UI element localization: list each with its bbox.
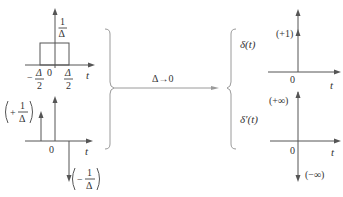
origin-label: 0 — [47, 67, 52, 78]
plus-infinity-arrow-icon — [296, 91, 301, 98]
pos-numerator: 1 — [20, 100, 25, 111]
delta-derivative-plot: δ′(t) (+∞) (−∞) 0 t — [240, 91, 341, 182]
impulse-strength-label: (+1) — [276, 28, 293, 40]
t-axis-arrow-icon — [86, 139, 93, 144]
limit-arrow-icon — [211, 86, 219, 90]
height-denominator: Δ — [59, 28, 66, 39]
minus-infinity-arrow-icon — [296, 175, 301, 182]
paren-left — [73, 168, 76, 190]
height-numerator: 1 — [60, 16, 65, 27]
limit-label: Δ→0 — [152, 73, 173, 84]
paren-left — [6, 101, 9, 123]
paren-right — [30, 101, 33, 123]
diagram-canvas: 1 Δ − Δ 2 0 Δ 2 t + 1 Δ 0 t — [0, 0, 343, 197]
origin-label: 0 — [290, 145, 295, 156]
paren-right — [97, 168, 100, 190]
pos-sign: + — [10, 107, 16, 118]
unit-impulse-arrow-icon — [296, 29, 301, 36]
t-axis-label: t — [86, 69, 90, 81]
plus-infinity-label: (+∞) — [269, 95, 288, 107]
delta-derivative-label: δ′(t) — [240, 113, 258, 126]
positive-impulse-arrow-icon — [39, 111, 44, 118]
neg-denominator: Δ — [86, 180, 93, 191]
pos-denominator: Δ — [19, 113, 26, 124]
t-axis-label: t — [85, 145, 89, 157]
delta-plot: δ(t) (+1) 0 t — [240, 9, 341, 91]
neg-sign: − — [27, 72, 33, 83]
neg-sign: − — [77, 174, 83, 185]
origin-label: 0 — [49, 144, 54, 155]
origin-label: 0 — [290, 74, 295, 85]
negative-impulse-arrow-icon — [67, 175, 72, 182]
pos-half-denominator: 2 — [66, 80, 71, 91]
delta-function-label: δ(t) — [240, 38, 256, 51]
rect-pulse-plot: 1 Δ − Δ 2 0 Δ 2 t — [25, 8, 95, 91]
left-brace — [105, 29, 114, 149]
t-axis-arrow-icon — [334, 139, 341, 144]
neg-half-denominator: 2 — [37, 80, 42, 91]
right-brace — [227, 29, 236, 149]
t-axis-arrow-icon — [334, 70, 341, 75]
pos-half-numerator: Δ — [64, 67, 71, 78]
y-axis-arrow-icon — [53, 96, 58, 103]
minus-infinity-label: (−∞) — [305, 169, 324, 181]
t-axis-label: t — [331, 146, 335, 158]
limit-transition: Δ→0 — [105, 29, 236, 149]
neg-numerator: 1 — [87, 167, 92, 178]
y-axis-arrow-icon — [296, 9, 301, 16]
derivative-impulse-plot: + 1 Δ 0 t − 1 Δ — [6, 96, 100, 191]
neg-half-numerator: Δ — [35, 67, 42, 78]
t-axis-arrow-icon — [88, 63, 95, 68]
t-axis-label: t — [330, 79, 334, 91]
y-axis-arrow-icon — [53, 8, 58, 15]
